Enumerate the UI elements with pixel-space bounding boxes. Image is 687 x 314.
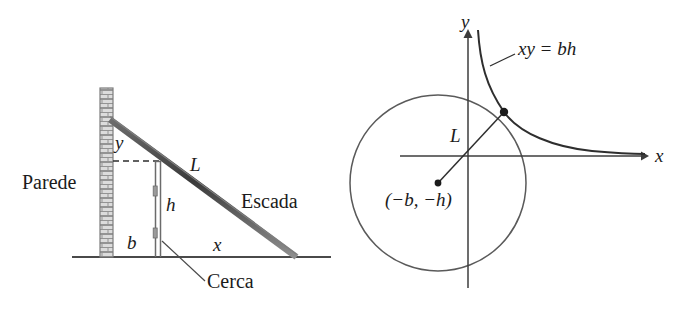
label-L-radius: L	[450, 126, 461, 145]
tangency-point-dot	[500, 108, 508, 116]
cerca-leader-line	[162, 241, 205, 281]
label-x-axis: x	[655, 146, 663, 165]
label-L-ladder-length: L	[190, 155, 201, 174]
label-y-axis: y	[461, 12, 469, 31]
x-axis-arrowhead	[641, 152, 649, 161]
label-center-coordinates: (−b, −h)	[385, 190, 452, 209]
figure-root: Parede Escada Cerca y L h b x	[0, 0, 687, 314]
left-diagram-ladder-wall-fence: Parede Escada Cerca y L h b x	[0, 0, 344, 314]
label-cerca: Cerca	[207, 271, 254, 291]
ladder-escada	[110, 117, 297, 257]
label-curve-equation: xy = bh	[518, 39, 576, 58]
radius-segment-L	[438, 112, 504, 183]
wall-parede	[100, 88, 113, 257]
label-parede: Parede	[22, 172, 76, 192]
label-x-distance: x	[213, 235, 221, 254]
label-escada: Escada	[241, 191, 298, 211]
right-diagram-svg	[344, 0, 687, 314]
fence-cerca	[153, 161, 160, 257]
circle-center-dot	[435, 180, 442, 187]
label-b-distance: b	[127, 233, 137, 252]
label-h-fence-height: h	[166, 195, 176, 214]
left-diagram-svg	[0, 0, 344, 314]
equation-leader-line	[490, 54, 515, 66]
label-y-segment: y	[115, 133, 123, 152]
right-diagram-hyperbola-circle: y x xy = bh L (−b, −h)	[344, 0, 687, 314]
